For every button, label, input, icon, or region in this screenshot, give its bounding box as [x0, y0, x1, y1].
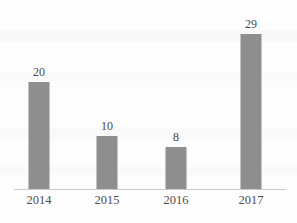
bar-group: 20	[6, 0, 72, 190]
bar-group: 10	[74, 0, 140, 190]
x-axis-tick-labels: 2014 2015 2016 2017	[0, 194, 297, 218]
bar-2015[interactable]	[97, 136, 118, 190]
x-tick-label-2017: 2017	[218, 194, 284, 207]
bar-value-label: 10	[101, 120, 113, 132]
x-tick-label-2015: 2015	[74, 194, 140, 207]
bar-group: 29	[218, 0, 284, 190]
bar-2014[interactable]	[29, 82, 50, 190]
bar-value-label: 29	[245, 18, 257, 30]
bar-value-label: 8	[173, 131, 179, 143]
bar-2016[interactable]	[166, 147, 187, 190]
x-tick-label-2016: 2016	[143, 194, 209, 207]
plot-area: 20 10 8 29	[0, 0, 297, 190]
bar-chart: 20 10 8 29 2014 2015 2016 2017	[0, 0, 297, 223]
bar-value-label: 20	[33, 66, 45, 78]
x-tick-label-2014: 2014	[6, 194, 72, 207]
x-axis-line	[14, 189, 286, 190]
bar-2017[interactable]	[241, 34, 262, 190]
bar-group: 8	[143, 0, 209, 190]
